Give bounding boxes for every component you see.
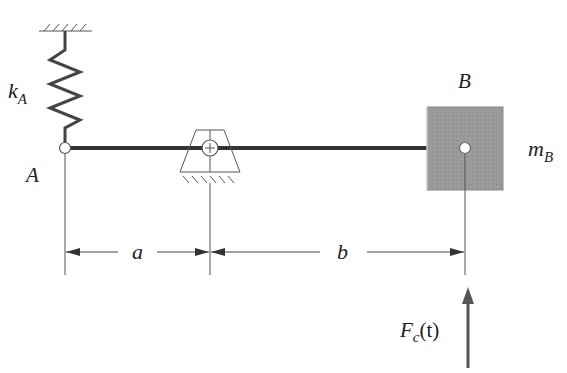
diagram-canvas: kA A B mB a b Fc(t): [0, 0, 567, 373]
spring-icon: [50, 31, 80, 143]
dimension-a-label: a: [132, 239, 143, 264]
pin-joint-b: [460, 143, 471, 154]
spring-label: kA: [8, 78, 28, 107]
force-label: Fc(t): [399, 318, 439, 345]
point-a-label: A: [24, 163, 39, 187]
pin-joint-a: [60, 143, 71, 154]
force-arrow-icon: [462, 287, 474, 368]
point-b-label: B: [458, 69, 471, 93]
pivot-support-icon: [180, 130, 240, 183]
mass-label: mB: [528, 136, 553, 165]
ceiling-support-icon: [39, 24, 92, 31]
dimension-b-label: b: [337, 239, 348, 264]
